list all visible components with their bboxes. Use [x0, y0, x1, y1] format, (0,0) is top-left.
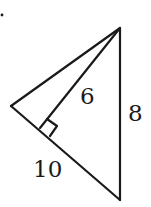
label-bottom-left-side: 10	[33, 156, 62, 182]
edge-apex-left	[11, 28, 120, 106]
label-altitude: 6	[80, 83, 95, 109]
right-angle-marker	[47, 119, 57, 136]
triangle-diagram: 6 8 10	[0, 0, 151, 207]
edge-left-bottom	[11, 106, 120, 200]
label-right-side: 8	[128, 100, 143, 126]
stray-dot	[1, 14, 4, 17]
